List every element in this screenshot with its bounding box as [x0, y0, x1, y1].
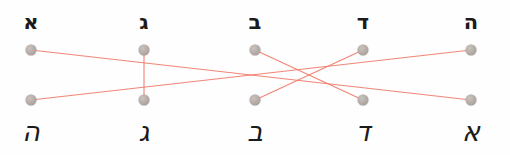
cursive-letter-dalet-cursive: ד: [356, 118, 371, 145]
print-letter-he: ה: [464, 12, 478, 33]
node-dot-dalet-cursive[interactable]: [358, 95, 369, 106]
cursive-letter-bet-cursive: ב: [247, 118, 263, 145]
node-dot-bet[interactable]: [250, 45, 261, 56]
node-dot-alef-cursive[interactable]: [466, 95, 477, 106]
cursive-letter-gimel-cursive: ג: [138, 118, 149, 145]
node-dot-he-cursive[interactable]: [26, 95, 37, 106]
print-letter-bet: ב: [249, 12, 262, 33]
print-letter-gimel: ג: [139, 12, 148, 33]
cursive-letter-he-cursive: ה: [22, 118, 40, 145]
print-letter-dalet: ד: [357, 12, 369, 33]
node-dot-gimel-cursive[interactable]: [139, 95, 150, 106]
matching-exercise-canvas: אגבדה הגבדא: [0, 0, 510, 155]
node-dot-alef[interactable]: [26, 45, 37, 56]
node-dot-dalet[interactable]: [358, 45, 369, 56]
node-dot-gimel[interactable]: [139, 45, 150, 56]
cursive-letter-alef-cursive: א: [462, 118, 480, 145]
node-dot-bet-cursive[interactable]: [250, 95, 261, 106]
node-dot-he[interactable]: [466, 45, 477, 56]
print-letter-alef: א: [23, 12, 38, 33]
